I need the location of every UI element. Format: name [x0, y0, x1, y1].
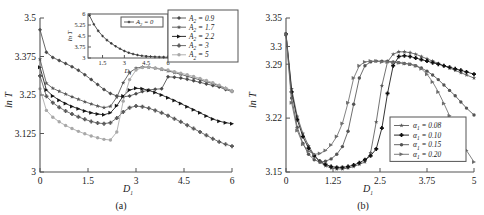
- data-point-marker: [140, 105, 144, 109]
- panel-a: 01.534.5633.1253.253.3753.5 1.534.5633.7…: [0, 0, 242, 215]
- data-point-marker: [185, 77, 189, 81]
- data-point-marker: [172, 99, 176, 103]
- data-point-marker: [58, 120, 61, 123]
- data-point-marker: [363, 64, 366, 67]
- data-point-marker: [192, 79, 196, 83]
- data-point-marker: [192, 127, 196, 131]
- data-point-marker: [128, 88, 132, 92]
- data-point-marker: [402, 50, 406, 54]
- x-tick-label: 3.75: [419, 176, 436, 186]
- data-point-marker: [89, 102, 93, 106]
- x-tick-label: 6: [230, 176, 235, 186]
- data-point-marker: [472, 72, 476, 76]
- data-point-marker: [329, 157, 332, 160]
- data-point-marker: [318, 160, 321, 163]
- data-point-marker: [147, 66, 150, 69]
- x-tick-label: 2.5: [374, 176, 386, 186]
- data-point-marker: [90, 134, 93, 137]
- x-tick-label: 0: [284, 176, 289, 186]
- data-point-marker: [89, 119, 93, 123]
- data-point-marker: [397, 50, 401, 54]
- data-point-marker: [64, 62, 68, 66]
- data-point-marker: [134, 86, 138, 90]
- data-point-marker: [204, 114, 208, 118]
- data-point-marker: [179, 120, 183, 124]
- data-point-marker: [160, 111, 164, 115]
- y-tick-label: 3.29: [265, 60, 282, 70]
- inset-xlabel: D1: [124, 67, 132, 76]
- panel-a-xlabel: D1: [122, 183, 133, 196]
- data-point-marker: [160, 93, 164, 97]
- data-point-marker: [45, 109, 48, 112]
- legend-item-label[interactable]: A2 = 5: [188, 50, 209, 60]
- panel-a-svg: 01.534.5633.1253.253.3753.5 1.534.5633.7…: [0, 0, 242, 215]
- data-point-marker: [186, 73, 189, 76]
- data-point-marker: [192, 108, 196, 112]
- series-line: [40, 76, 232, 146]
- panel-a-ylabel: ln T: [3, 91, 14, 108]
- data-point-marker: [414, 56, 418, 60]
- data-point-marker: [89, 111, 93, 115]
- data-point-marker: [363, 60, 367, 64]
- data-point-marker: [172, 117, 176, 121]
- data-point-marker: [70, 95, 74, 99]
- y-tick-label: 3.3: [270, 42, 282, 52]
- inset-x-tick-label: 3: [123, 59, 126, 66]
- data-point-marker: [324, 160, 327, 163]
- data-point-marker: [198, 111, 202, 115]
- data-point-marker: [108, 91, 112, 95]
- data-point-marker: [122, 99, 125, 102]
- data-point-marker: [172, 75, 176, 79]
- series-markers: [38, 66, 233, 142]
- data-point-marker: [211, 81, 214, 84]
- data-point-marker: [224, 142, 228, 146]
- data-point-marker: [70, 112, 74, 116]
- data-point-marker: [63, 92, 67, 96]
- data-point-marker: [313, 158, 316, 161]
- data-point-marker: [128, 94, 132, 98]
- data-point-marker: [230, 90, 233, 93]
- data-point-marker: [128, 78, 131, 81]
- data-point-marker: [335, 135, 339, 139]
- data-point-marker: [160, 67, 163, 70]
- data-point-marker: [96, 136, 99, 139]
- data-point-marker: [436, 90, 440, 94]
- data-point-marker: [102, 122, 106, 126]
- x-tick-label: 3: [134, 176, 139, 186]
- data-point-marker: [198, 77, 201, 80]
- data-point-marker: [177, 53, 180, 56]
- data-point-marker: [64, 102, 68, 106]
- data-point-marker: [318, 152, 322, 156]
- data-point-marker: [465, 106, 468, 109]
- data-point-marker: [57, 59, 61, 63]
- data-point-marker: [386, 91, 390, 95]
- data-point-marker: [179, 71, 182, 74]
- data-point-marker: [211, 137, 215, 141]
- panel-b-svg: 01.252.53.7553.153.223.293.33.35 α1 = 0.…: [242, 0, 484, 215]
- data-point-marker: [224, 87, 227, 90]
- data-point-marker: [64, 109, 68, 113]
- y-tick-label: 3.375: [15, 52, 37, 62]
- data-point-marker: [83, 132, 86, 135]
- data-point-marker: [192, 75, 195, 78]
- data-point-marker: [472, 160, 476, 164]
- data-point-marker: [173, 70, 176, 73]
- data-point-marker: [414, 52, 418, 56]
- data-point-marker: [301, 135, 305, 139]
- data-point-marker: [96, 112, 100, 116]
- data-point-marker: [442, 64, 446, 68]
- data-point-marker: [204, 133, 208, 137]
- data-point-marker: [160, 87, 164, 91]
- series-markers: [38, 74, 234, 148]
- data-point-marker: [205, 79, 208, 82]
- data-point-marker: [109, 138, 112, 141]
- data-point-marker: [76, 107, 80, 111]
- data-point-marker: [352, 103, 355, 106]
- data-point-marker: [83, 99, 87, 103]
- data-point-marker: [102, 113, 106, 117]
- data-point-marker: [166, 114, 170, 118]
- data-point-marker: [454, 94, 457, 97]
- data-point-marker: [154, 66, 157, 69]
- data-point-marker: [472, 76, 476, 80]
- data-point-marker: [185, 123, 189, 127]
